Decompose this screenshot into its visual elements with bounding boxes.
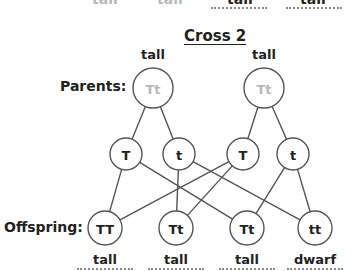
svg-text:t: t <box>176 148 182 163</box>
connector-line <box>187 166 232 216</box>
svg-text:tt: tt <box>309 222 321 237</box>
svg-text:Tt: Tt <box>239 222 254 237</box>
svg-text:Tt: Tt <box>168 222 183 237</box>
offspring-1-dotted-line <box>77 268 133 270</box>
gamete-circle-1: T <box>110 138 142 170</box>
connector-line <box>110 169 122 211</box>
parent-genotype-circle-2: Tt <box>244 68 284 108</box>
offspring-2-phenotype: tall <box>146 252 206 267</box>
punnett-cross-diagram: TtTtTtTtTTTtTttt <box>0 0 353 271</box>
offspring-4-phenotype: dwarf <box>285 252 345 267</box>
connector-line <box>298 169 311 211</box>
svg-text:t: t <box>290 148 296 163</box>
svg-text:TT: TT <box>96 222 114 237</box>
connector-line <box>177 170 179 211</box>
connector-line <box>132 107 145 140</box>
connector-line <box>160 107 173 140</box>
offspring-3-dotted-line <box>219 268 275 270</box>
connector-line <box>256 168 285 214</box>
connector-line <box>248 107 258 139</box>
offspring-1-phenotype: tall <box>75 252 135 267</box>
connector-line <box>272 106 287 139</box>
offspring-genotype-circle-1: TT <box>88 211 122 245</box>
parent-genotype-circle-1: Tt <box>133 68 173 108</box>
offspring-genotype-circle-3: Tt <box>230 211 264 245</box>
svg-text:Tt: Tt <box>256 82 271 97</box>
offspring-genotype-circle-2: Tt <box>159 211 193 245</box>
svg-text:T: T <box>239 148 248 163</box>
offspring-3-phenotype: tall <box>217 252 277 267</box>
gamete-circle-4: t <box>277 138 309 170</box>
connector-line <box>140 162 233 219</box>
gamete-circle-2: t <box>163 138 195 170</box>
offspring-4-dotted-line <box>287 268 343 270</box>
svg-text:T: T <box>122 148 131 163</box>
offspring-2-dotted-line <box>148 268 204 270</box>
gamete-circle-3: T <box>227 138 259 170</box>
svg-text:Tt: Tt <box>145 82 160 97</box>
offspring-genotype-circle-4: tt <box>298 211 332 245</box>
